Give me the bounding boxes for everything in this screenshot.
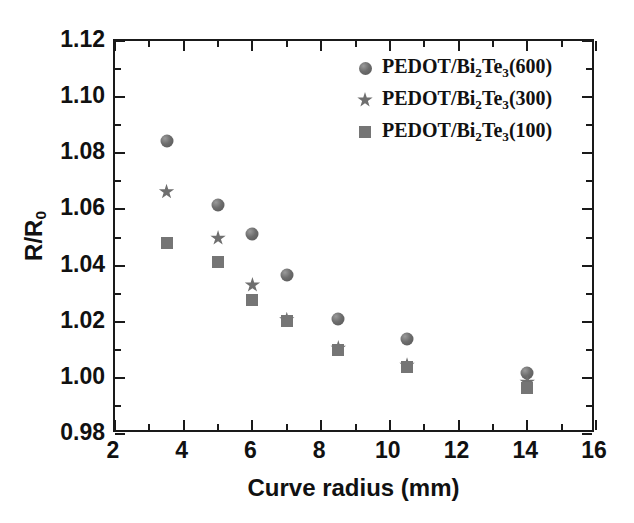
legend-label: PEDOT/Bi2Te3(600) (382, 55, 552, 81)
axis-tick (320, 420, 322, 430)
square-icon (359, 126, 371, 138)
axis-tick (526, 420, 528, 430)
legend-item-2[interactable]: PEDOT/Bi2Te3(100) (348, 116, 552, 148)
axis-tick (115, 293, 121, 295)
y-axis-title-subscript: 0 (32, 211, 49, 220)
circle-icon (359, 62, 372, 75)
axis-tick (582, 321, 592, 323)
axis-tick (115, 265, 125, 267)
data-point-series2 (401, 361, 413, 373)
axis-tick (389, 420, 391, 430)
axis-tick (115, 349, 121, 351)
legend-marker-circle (348, 62, 382, 75)
axis-tick (148, 41, 150, 47)
data-point-series1 (159, 184, 175, 200)
axis-tick (251, 420, 253, 430)
axis-tick (586, 349, 592, 351)
y-tick-label: 1.10 (60, 82, 105, 109)
legend-marker-square (348, 126, 382, 138)
data-point-series2 (212, 256, 224, 268)
axis-tick (115, 124, 121, 126)
axis-tick (586, 68, 592, 70)
y-tick-label: 1.06 (60, 194, 105, 221)
axis-tick (355, 424, 357, 430)
axis-tick (115, 96, 125, 98)
axis-tick (582, 40, 592, 42)
data-point-series2 (332, 344, 344, 356)
axis-tick (148, 424, 150, 430)
data-point-series0 (332, 312, 345, 325)
axis-tick (115, 433, 125, 435)
data-point-series2 (521, 382, 533, 394)
data-point-series0 (160, 134, 173, 147)
x-axis-title: Curve radius (mm) (113, 474, 594, 502)
axis-tick (423, 41, 425, 47)
x-tick-label: 8 (313, 437, 326, 464)
axis-tick (458, 420, 460, 430)
axis-tick (586, 293, 592, 295)
axis-tick (115, 180, 121, 182)
data-point-series1 (244, 277, 260, 293)
y-tick-label: 1.00 (60, 362, 105, 389)
axis-tick (582, 152, 592, 154)
axis-tick (115, 377, 125, 379)
data-point-series2 (246, 294, 258, 306)
x-tick-label: 4 (175, 437, 188, 464)
axis-tick (320, 41, 322, 51)
x-tick-label: 16 (581, 437, 607, 464)
legend: PEDOT/Bi2Te3(600)PEDOT/Bi2Te3(300)PEDOT/… (348, 52, 552, 148)
axis-tick (183, 41, 185, 51)
axis-tick (582, 377, 592, 379)
axis-tick (458, 41, 460, 51)
y-tick-label: 1.04 (60, 250, 105, 277)
axis-tick (561, 41, 563, 47)
axis-tick (115, 405, 121, 407)
x-tick-label: 10 (375, 437, 401, 464)
axis-tick (114, 420, 116, 430)
y-axis-title-base: R/R (20, 220, 47, 261)
y-tick-label: 1.02 (60, 306, 105, 333)
legend-item-1[interactable]: PEDOT/Bi2Te3(300) (348, 84, 552, 116)
y-tick-label: 1.12 (60, 26, 105, 53)
axis-tick (586, 180, 592, 182)
axis-tick (586, 124, 592, 126)
axis-tick (389, 41, 391, 51)
axis-tick (582, 208, 592, 210)
axis-tick (561, 424, 563, 430)
data-point-series2 (161, 237, 173, 249)
data-point-series0 (280, 268, 293, 281)
y-tick-label: 0.98 (60, 419, 105, 446)
data-point-series1 (210, 230, 226, 246)
axis-tick (582, 265, 592, 267)
x-tick-label: 2 (107, 437, 120, 464)
axis-tick (115, 68, 121, 70)
axis-tick (595, 420, 597, 430)
y-tick-label: 1.08 (60, 138, 105, 165)
axis-tick (582, 433, 592, 435)
axis-tick (115, 237, 121, 239)
axis-tick (582, 96, 592, 98)
axis-tick (115, 40, 125, 42)
x-tick-label: 14 (512, 437, 538, 464)
axis-tick (115, 152, 125, 154)
axis-tick (492, 424, 494, 430)
x-tick-label: 12 (444, 437, 470, 464)
legend-label: PEDOT/Bi2Te3(300) (382, 87, 552, 113)
axis-tick (595, 41, 597, 51)
legend-label: PEDOT/Bi2Te3(100) (382, 119, 552, 145)
axis-tick (217, 41, 219, 47)
axis-tick (286, 41, 288, 47)
axis-tick (217, 424, 219, 430)
axis-tick (355, 41, 357, 47)
axis-tick (286, 424, 288, 430)
axis-tick (251, 41, 253, 51)
axis-tick (586, 405, 592, 407)
axis-tick (586, 237, 592, 239)
data-point-series0 (246, 227, 259, 240)
axis-tick (114, 41, 116, 51)
data-point-series2 (281, 315, 293, 327)
figure-scatter-chart: R/R0 Curve radius (mm) 246810121416 0.98… (0, 0, 634, 523)
axis-tick (423, 424, 425, 430)
x-tick-label: 6 (244, 437, 257, 464)
legend-item-0[interactable]: PEDOT/Bi2Te3(600) (348, 52, 552, 84)
